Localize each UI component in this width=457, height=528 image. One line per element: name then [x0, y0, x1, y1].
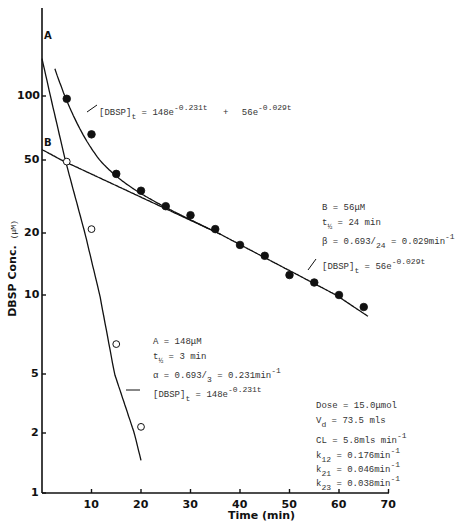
x-tick-label: 10 [84, 498, 99, 511]
y-tick-label: 10 [24, 288, 39, 301]
filled-data-point [310, 279, 318, 287]
filled-data-point [335, 291, 343, 299]
biexponential-equation: [DBSP]t = 148e-0.231t + 56e-0.029t [99, 104, 292, 121]
intercept-label-a: A [44, 30, 52, 41]
y-tick-label: 2 [31, 426, 39, 439]
open-data-point [138, 423, 145, 430]
filled-data-point [360, 303, 368, 311]
y-tick-label: 50 [24, 153, 39, 166]
intercept-label-b: B [44, 137, 52, 148]
x-tick-label: 70 [381, 498, 396, 511]
open-data-point [113, 341, 120, 348]
open-data-point [63, 158, 70, 165]
x-tick-label: 60 [331, 498, 346, 511]
filled-data-point [211, 225, 219, 233]
x-tick-label: 30 [183, 498, 198, 511]
filled-data-point [88, 131, 96, 139]
y-tick-label: 5 [31, 367, 39, 380]
filled-data-point [63, 95, 71, 103]
filled-data-point [187, 211, 195, 219]
filled-data-point [112, 170, 120, 178]
x-tick-label: 20 [133, 498, 148, 511]
x-axis-label: Time (min) [228, 509, 295, 522]
filled-data-point [261, 252, 269, 260]
y-tick-label: 20 [24, 226, 39, 239]
filled-data-point [162, 202, 170, 210]
y-tick-label: 1 [31, 486, 39, 499]
filled-data-point [286, 271, 294, 279]
leader-lines [87, 105, 316, 390]
y-tick-label: 100 [17, 89, 40, 102]
filled-data-point [236, 241, 244, 249]
open-data-point [88, 226, 95, 233]
filled-data-point [137, 187, 145, 195]
y-axis-label: DBSP Conc.(μM) [6, 220, 19, 317]
